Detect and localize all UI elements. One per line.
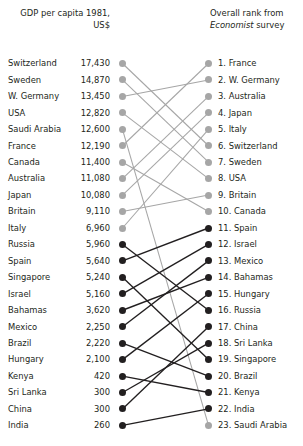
left-value-label: 3,620 — [58, 305, 110, 315]
left-value-label: 300 — [58, 404, 110, 414]
right-data-point[interactable] — [205, 60, 212, 67]
connector-line — [123, 113, 209, 179]
connector-line — [123, 162, 209, 211]
connector-line — [123, 409, 209, 425]
right-data-point[interactable] — [205, 225, 212, 232]
left-value-label: 12,190 — [58, 141, 110, 151]
right-rank-label: 5. Italy — [218, 124, 302, 134]
left-value-label: 13,450 — [58, 91, 110, 101]
right-rank-label: 8. USA — [218, 173, 302, 183]
right-rank-label: 15. Hungary — [218, 289, 302, 299]
right-rank-label: 14. Bahamas — [218, 272, 302, 282]
right-rank-label: 12. Israel — [218, 239, 302, 249]
left-value-label: 11,080 — [58, 173, 110, 183]
left-value-label: 10,080 — [58, 190, 110, 200]
left-data-point[interactable] — [119, 208, 126, 215]
right-data-point[interactable] — [205, 340, 212, 347]
right-data-point[interactable] — [205, 307, 212, 314]
right-rank-label: 1. France — [218, 58, 302, 68]
left-data-point[interactable] — [119, 373, 126, 380]
right-rank-label: 20. Brazil — [218, 371, 302, 381]
right-rank-label: 21. Kenya — [218, 387, 302, 397]
right-rank-label: 11. Spain — [218, 223, 302, 233]
connector-line — [123, 327, 209, 409]
right-data-point[interactable] — [205, 126, 212, 133]
left-value-label: 260 — [58, 420, 110, 430]
right-data-point[interactable] — [205, 93, 212, 100]
right-data-point[interactable] — [205, 274, 212, 281]
right-data-point[interactable] — [205, 241, 212, 248]
right-rank-label: 4. Japan — [218, 108, 302, 118]
slopegraph-chart: GDP per capita 1981, US$ Overall rank fr… — [0, 0, 303, 446]
right-data-point[interactable] — [205, 208, 212, 215]
right-rank-label: 7. Sweden — [218, 157, 302, 167]
right-rank-label: 10. Canada — [218, 206, 302, 216]
left-value-label: 6,960 — [58, 223, 110, 233]
left-data-point[interactable] — [119, 126, 126, 133]
right-rank-label: 2. W. Germany — [218, 75, 302, 85]
left-value-label: 12,820 — [58, 108, 110, 118]
right-rank-label: 6. Switzerland — [218, 141, 302, 151]
connector-line — [123, 80, 209, 162]
connector-line — [123, 244, 209, 293]
left-data-point[interactable] — [119, 159, 126, 166]
left-data-point[interactable] — [119, 340, 126, 347]
connector-line — [123, 261, 209, 327]
connector-line — [123, 195, 209, 211]
right-rank-label: 13. Mexico — [218, 256, 302, 266]
right-data-point[interactable] — [205, 422, 212, 429]
left-data-point[interactable] — [119, 225, 126, 232]
right-data-point[interactable] — [205, 159, 212, 166]
right-data-point[interactable] — [205, 192, 212, 199]
left-value-label: 17,430 — [58, 58, 110, 68]
left-data-point[interactable] — [119, 241, 126, 248]
connector-line — [123, 376, 209, 392]
left-value-label: 11,400 — [58, 157, 110, 167]
left-data-point[interactable] — [119, 60, 126, 67]
left-value-label: 2,100 — [58, 354, 110, 364]
left-data-point[interactable] — [119, 422, 126, 429]
plot-area: Switzerland17,430Sweden14,870W. Germany1… — [0, 0, 303, 446]
right-rank-label: 17. China — [218, 322, 302, 332]
left-value-label: 14,870 — [58, 75, 110, 85]
left-value-label: 420 — [58, 371, 110, 381]
left-value-label: 9,110 — [58, 206, 110, 216]
left-value-label: 5,640 — [58, 256, 110, 266]
right-rank-label: 22. India — [218, 404, 302, 414]
connector-line — [123, 96, 209, 178]
left-data-point[interactable] — [119, 93, 126, 100]
right-data-point[interactable] — [205, 373, 212, 380]
right-rank-label: 23. Saudi Arabia — [218, 420, 302, 430]
left-data-point[interactable] — [119, 274, 126, 281]
connector-line — [123, 129, 209, 228]
connector-line — [123, 244, 209, 310]
left-value-label: 2,220 — [58, 338, 110, 348]
connector-line — [123, 294, 209, 360]
connector-line — [123, 80, 209, 96]
left-data-point[interactable] — [119, 192, 126, 199]
right-rank-label: 16. Russia — [218, 305, 302, 315]
connector-line — [123, 277, 209, 359]
left-data-point[interactable] — [119, 389, 126, 396]
right-data-point[interactable] — [205, 389, 212, 396]
left-value-label: 5,240 — [58, 272, 110, 282]
left-value-label: 5,960 — [58, 239, 110, 249]
left-value-label: 12,600 — [58, 124, 110, 134]
left-value-label: 300 — [58, 387, 110, 397]
left-value-label: 2,250 — [58, 322, 110, 332]
right-rank-label: 18. Sri Lanka — [218, 338, 302, 348]
connector-line — [123, 113, 209, 195]
connector-line — [123, 228, 209, 261]
left-data-point[interactable] — [119, 307, 126, 314]
right-rank-label: 19. Singapore — [218, 354, 302, 364]
right-rank-label: 3. Australia — [218, 91, 302, 101]
right-rank-label: 9. Britain — [218, 190, 302, 200]
left-value-label: 5,160 — [58, 289, 110, 299]
